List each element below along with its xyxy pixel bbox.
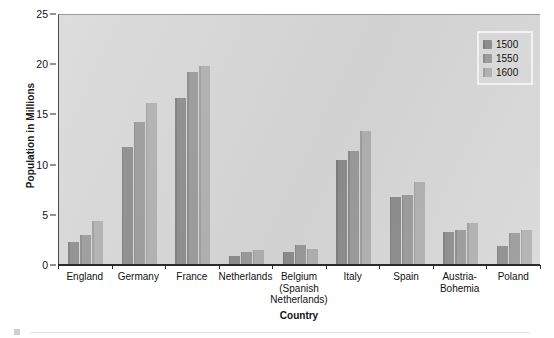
bar [402,195,413,265]
bar [175,98,186,265]
y-axis-tick-label: 10 [22,159,48,171]
legend-item: 1550 [483,51,526,65]
legend-item: 1500 [483,37,526,51]
bar-group [388,15,426,265]
bar [497,246,508,265]
bar [68,242,79,265]
x-axis-ticks [58,265,540,270]
bar-group [442,15,480,265]
y-axis-tick-label: 5 [22,209,48,221]
bar-group [227,15,265,265]
footer-mark [14,329,20,335]
bar [509,233,520,265]
bar [390,197,401,265]
plot-inner [59,15,540,265]
y-axis-tick-mark [50,164,56,165]
x-axis-labels: EnglandGermanyFranceNetherlandsBelgium(S… [58,271,540,315]
x-axis-category-label: Poland [471,271,554,283]
x-axis-tick-mark [540,265,541,269]
bar-group [335,15,373,265]
y-axis-tick-mark [50,265,56,266]
bar [253,250,264,265]
legend-swatch [483,40,492,49]
bar-group [174,15,212,265]
legend-swatch [483,54,492,63]
y-axis-tick-label: 15 [22,108,48,120]
x-axis-category-label-line: Bohemia [418,283,502,295]
bar [521,230,532,265]
bar [187,72,198,265]
y-axis-tick-label: 0 [22,259,48,271]
legend: 150015501600 [477,31,533,85]
y-axis: 0510152025 [20,14,58,265]
bar [295,245,306,265]
bar-group [281,15,319,265]
bar [414,182,425,265]
y-axis-tick-label: 25 [22,8,48,20]
bar [146,103,157,265]
bar [455,230,466,265]
legend-item: 1600 [483,65,526,79]
bar [336,160,347,265]
x-axis-tick-mark [433,265,434,269]
bar [348,151,359,265]
bar [80,235,91,265]
bar-group [120,15,158,265]
x-axis-tick-mark [165,265,166,269]
y-axis-tick-label: 20 [22,58,48,70]
footer-divider [30,332,530,333]
legend-label: 1550 [496,53,518,64]
x-axis-tick-mark [112,265,113,269]
y-axis-tick-mark [50,64,56,65]
bar [199,66,210,265]
bar [92,221,103,265]
x-axis-tick-mark [326,265,327,269]
x-axis-tick-mark [272,265,273,269]
x-axis-title: Country [58,310,540,321]
bar [467,223,478,265]
bar [443,232,454,265]
y-axis-tick-mark [50,114,56,115]
y-axis-tick-mark [50,214,56,215]
x-axis-category-label-line: (Spanish [257,283,341,295]
bar [122,147,133,265]
population-bar-chart-figure: Population in Millions 0510152025 Englan… [0,0,554,338]
x-axis-tick-mark [379,265,380,269]
plot-area [58,14,540,265]
legend-label: 1500 [496,39,518,50]
x-axis-tick-mark [486,265,487,269]
bar [360,131,371,265]
x-axis-category-label-line: Poland [471,271,554,283]
x-axis-category-label-line: Netherlands) [257,294,341,306]
y-axis-tick-mark [50,14,56,15]
bar [307,249,318,265]
bar [134,122,145,265]
legend-swatch [483,68,492,77]
legend-label: 1600 [496,67,518,78]
x-axis-tick-mark [58,265,59,269]
bar-group [67,15,105,265]
x-axis-tick-mark [219,265,220,269]
